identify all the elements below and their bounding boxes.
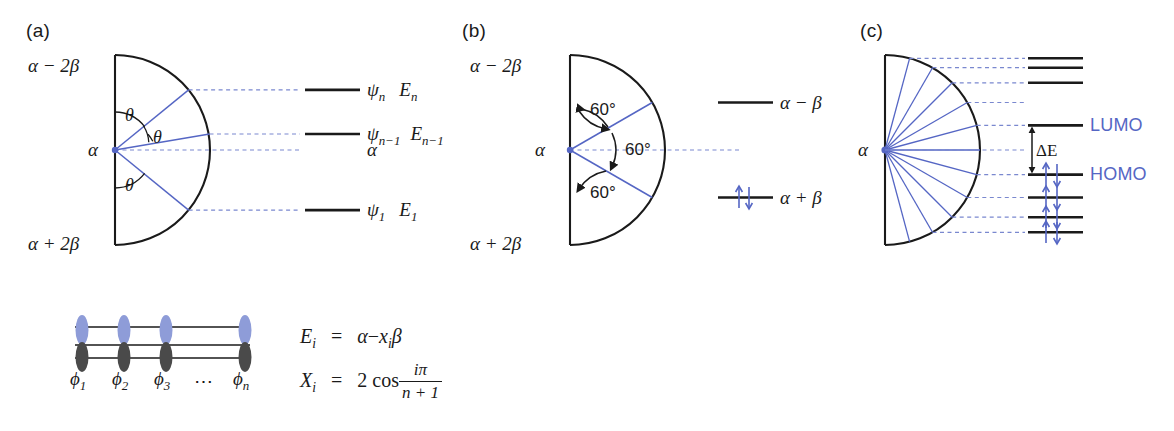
phi-3-sub: 3 (164, 378, 170, 393)
energy-1-sub: 1 (411, 209, 417, 224)
eq-energy-lhs: E (300, 325, 312, 347)
level-label-psi-n: ψnEn (367, 79, 417, 105)
angle-label-middle-b: 60° (625, 140, 651, 160)
p-orbital-phi-n (239, 315, 252, 372)
level-label-alpha-plus-beta: α + β (780, 187, 822, 209)
homo-label: HOMO (1090, 164, 1147, 185)
eq-coef-fn: 2 cos (357, 369, 399, 391)
p-orbital-phi-2 (118, 315, 131, 372)
p-orbital-phi-1 (76, 315, 89, 372)
psi-n-sub: n (379, 89, 385, 104)
axis-label-top-a: α − 2β (28, 55, 79, 77)
radius-c-5 (885, 125, 977, 150)
axis-label-mid-b: α (535, 139, 545, 161)
delta-e-head-down (1029, 167, 1036, 174)
axis-label-mid-c: α (858, 139, 868, 161)
level-label-alpha-minus-beta: α − β (780, 92, 822, 114)
delta-e-label: ΔE (1036, 141, 1057, 161)
panel-c-graphics (840, 0, 1174, 431)
lumo-label: LUMO (1090, 115, 1143, 136)
eq-energy-alpha: α (357, 325, 368, 347)
radius-c-7 (885, 150, 977, 175)
eq-energy-beta: β (392, 325, 402, 347)
eq-energy-x: x (379, 325, 388, 347)
psi-1-symbol: ψ (367, 199, 379, 220)
energy-n-symbol: E (399, 79, 411, 100)
energy-1-symbol: E (399, 199, 411, 220)
theta-label-upper: θ (125, 105, 134, 126)
phi-1-sub: 1 (80, 378, 86, 393)
phi-1-symbol: ϕ (70, 368, 80, 389)
axis-label-top-b: α − 2β (470, 55, 521, 77)
level-label-psi-n-1: ψn−1En−1 (367, 123, 444, 149)
basis-label-phi-n: ϕn (233, 368, 249, 394)
panel-c: (c) (840, 0, 1174, 431)
angle-label-upper-b: 60° (590, 100, 616, 120)
figure-root: (a) (0, 0, 1174, 431)
equation-coefficient: Xi = 2 cosiπn + 1 (300, 361, 442, 403)
axis-label-mid-a: α (88, 139, 98, 161)
energy-n-sub: n (411, 89, 417, 104)
eq-coef-lhs-sub: i (312, 380, 316, 395)
phi-3-symbol: ϕ (154, 368, 164, 389)
eq-energy-lhs-sub: i (312, 336, 316, 351)
lobe-top-3 (160, 315, 173, 345)
radius-psi-n-1 (115, 134, 210, 150)
eq-coef-lhs: X (300, 369, 312, 391)
phi-2-symbol: ϕ (112, 368, 122, 389)
phi-2-sub: 2 (122, 378, 128, 393)
basis-label-phi-3: ϕ3 (154, 368, 170, 394)
basis-label-phi-1: ϕ1 (70, 368, 86, 394)
panel-a: (a) (0, 0, 440, 431)
basis-label-phi-2: ϕ2 (112, 368, 128, 394)
axis-label-bottom-a: α + 2β (28, 233, 79, 255)
p-orbital-phi-3 (160, 315, 173, 372)
psi-1-sub: 1 (379, 209, 385, 224)
energy-n-1-symbol: E (410, 123, 422, 144)
theta-label-lower: θ (125, 175, 134, 196)
psi-n-symbol: ψ (367, 79, 379, 100)
level-label-alpha-a: α (367, 139, 377, 161)
delta-e-head-up (1029, 127, 1036, 134)
phi-n-symbol: ϕ (233, 368, 243, 389)
basis-ellipsis: ⋯ (194, 370, 215, 393)
panel-b: (b) (440, 0, 840, 431)
radius-c-1 (885, 58, 910, 150)
phi-n-sub: n (243, 378, 249, 393)
theta-arc-middle (144, 126, 149, 142)
eq-coef-denominator: n + 1 (399, 382, 442, 403)
lobe-top-2 (118, 315, 131, 345)
lobe-top-n (239, 315, 252, 345)
eq-coef-fraction: iπn + 1 (399, 360, 442, 402)
eq-energy-minus: − (368, 325, 379, 347)
level-label-psi-1: ψ1E1 (367, 199, 417, 225)
radius-c-11 (885, 150, 910, 242)
eq-coef-numerator: iπ (399, 360, 442, 382)
circle-center-dot-a (112, 147, 118, 153)
lobe-top-1 (76, 315, 89, 345)
theta-label-middle: θ (153, 127, 162, 148)
delta-e-arrow (1029, 127, 1036, 174)
angle-label-lower-b: 60° (590, 183, 616, 203)
axis-label-bottom-b: α + 2β (470, 233, 521, 255)
circle-center-dot-b (567, 147, 573, 153)
equation-energy: Ei = α−xiβ (300, 325, 402, 352)
psi-n-1-sub: n−1 (379, 133, 401, 148)
